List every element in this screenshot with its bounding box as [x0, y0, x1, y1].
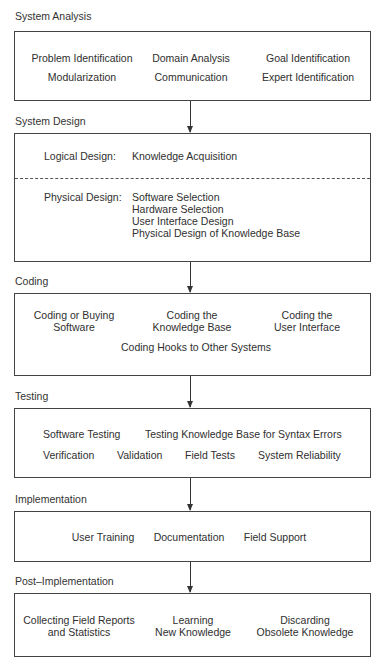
item-coding-or-buying: Coding or Buying [34, 309, 115, 321]
stage-title-coding: Coding [15, 275, 48, 287]
item-modularization: Modularization [48, 71, 116, 83]
item-field-support: Field Support [244, 531, 306, 543]
item-learning-line2: New Knowledge [155, 626, 231, 638]
item-communication: Communication [155, 71, 228, 83]
item-documentation: Documentation [154, 531, 225, 543]
item-user-training: User Training [72, 531, 134, 543]
logical-physical-divider [15, 178, 370, 179]
item-domain-analysis: Domain Analysis [152, 52, 230, 64]
item-system-reliability: System Reliability [258, 449, 341, 461]
arrow-down-icon [190, 101, 191, 132]
stage-title-post-implementation: Post–Implementation [15, 575, 114, 587]
item-collecting-field-reports-line2: and Statistics [48, 626, 110, 638]
item-field-tests: Field Tests [185, 449, 235, 461]
item-goal-identification: Goal Identification [266, 52, 350, 64]
item-problem-identification: Problem Identification [32, 52, 133, 64]
logical-design-label: Logical Design: [44, 150, 116, 162]
item-coding-ui: Coding the [282, 309, 333, 321]
item-hardware-selection: Hardware Selection [132, 203, 224, 215]
item-physical-design-kb: Physical Design of Knowledge Base [132, 227, 300, 239]
stage-title-implementation: Implementation [15, 493, 87, 505]
physical-design-label: Physical Design: [44, 191, 122, 203]
item-user-interface-design: User Interface Design [132, 215, 234, 227]
item-testing-kb-syntax: Testing Knowledge Base for Syntax Errors [145, 428, 342, 440]
item-collecting-field-reports: Collecting Field Reports [23, 614, 134, 626]
item-discarding: Discarding [280, 614, 330, 626]
stage-box-testing: Software Testing Testing Knowledge Base … [14, 408, 371, 478]
arrow-down-icon [190, 562, 191, 592]
item-expert-identification: Expert Identification [262, 71, 354, 83]
item-coding-or-buying-line2: Software [53, 321, 94, 333]
item-coding-ui-line2: User Interface [274, 321, 340, 333]
arrow-down-icon [190, 478, 191, 510]
item-knowledge-acquisition: Knowledge Acquisition [132, 150, 237, 162]
stage-title-testing: Testing [15, 390, 48, 402]
item-coding-kb: Coding the [167, 309, 218, 321]
arrow-down-icon [190, 376, 191, 407]
item-validation: Validation [117, 449, 162, 461]
item-coding-kb-line2: Knowledge Base [153, 321, 232, 333]
item-discarding-line2: Obsolete Knowledge [257, 626, 354, 638]
stage-title-system-analysis: System Analysis [15, 10, 91, 22]
item-software-testing: Software Testing [43, 428, 120, 440]
stage-box-system-design: Logical Design: Knowledge Acquisition Ph… [14, 133, 371, 262]
item-verification: Verification [43, 449, 94, 461]
stage-box-implementation: User Training Documentation Field Suppor… [14, 511, 371, 562]
stage-title-system-design: System Design [15, 115, 86, 127]
stage-box-system-analysis: Problem Identification Domain Analysis G… [14, 31, 371, 101]
item-software-selection: Software Selection [132, 191, 220, 203]
item-coding-hooks: Coding Hooks to Other Systems [121, 341, 271, 353]
arrow-down-icon [190, 262, 191, 292]
item-learning: Learning [173, 614, 214, 626]
stage-box-post-implementation: Collecting Field Reports and Statistics … [14, 593, 371, 657]
stage-box-coding: Coding or Buying Software Coding the Kno… [14, 293, 371, 376]
